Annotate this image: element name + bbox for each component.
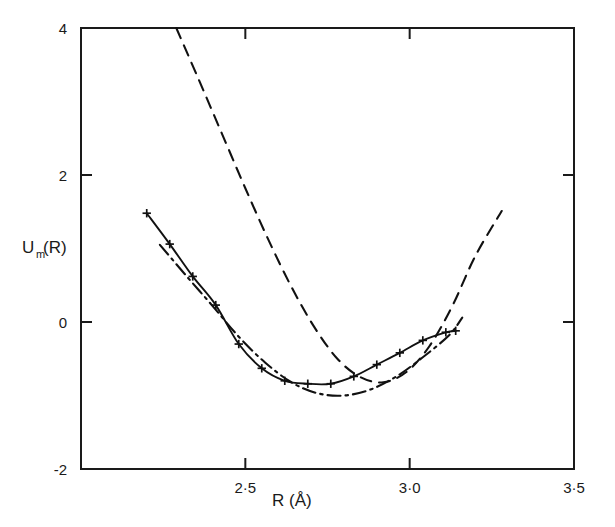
x-axis-ticks	[245, 458, 409, 469]
y-axis-ticks-right	[563, 175, 574, 322]
curve-dashed	[176, 28, 501, 382]
y-tick-label: -2	[54, 461, 67, 478]
y-axis-title-main: U	[22, 238, 34, 257]
data-point-marker	[327, 380, 335, 388]
data-point-marker	[350, 372, 358, 380]
curve-solid-with-markers	[147, 213, 456, 384]
x-tick-label: 3·0	[399, 479, 421, 496]
data-point-marker	[419, 336, 427, 344]
x-axis-title: R (Å)	[272, 491, 312, 510]
plot-frame	[81, 28, 574, 469]
x-axis-ticks-top	[245, 28, 409, 39]
data-point-marker	[281, 377, 289, 385]
data-marker-layer	[143, 209, 460, 388]
x-tick-label: 3·5	[563, 479, 585, 496]
y-axis-title-tail: (R)	[43, 238, 67, 257]
y-tick-label: 0	[59, 314, 67, 331]
y-tick-label: 4	[59, 20, 67, 37]
potential-energy-curve-chart: 2·53·03·5 420-2 R (Å) U m (R)	[0, 0, 615, 527]
data-point-marker	[373, 360, 381, 368]
y-axis-ticks	[81, 175, 92, 322]
data-point-marker	[396, 349, 404, 357]
data-series-layer	[147, 28, 502, 396]
x-tick-label: 2·5	[234, 479, 256, 496]
data-point-marker	[451, 327, 459, 335]
figure-container: 2·53·03·5 420-2 R (Å) U m (R)	[0, 0, 615, 527]
curve-dash-dot	[160, 245, 462, 396]
y-tick-label: 2	[59, 167, 67, 184]
y-axis-title: U m (R)	[22, 238, 67, 260]
data-point-marker	[304, 380, 312, 388]
